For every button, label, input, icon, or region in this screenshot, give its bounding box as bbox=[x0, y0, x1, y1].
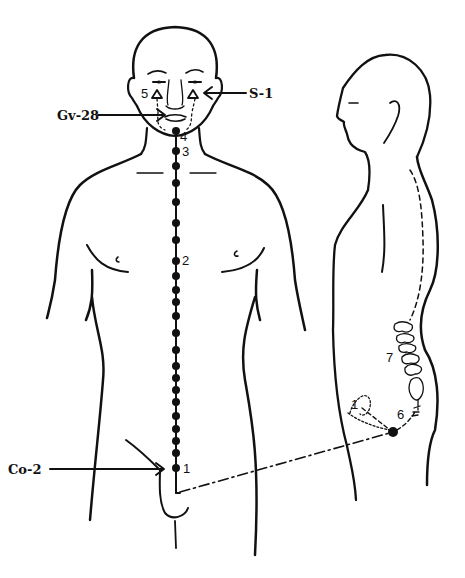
point-number-7: 7 bbox=[386, 350, 393, 365]
right-nipple bbox=[234, 251, 238, 256]
side-meridian-dashed bbox=[362, 408, 415, 430]
left-ear bbox=[128, 78, 137, 106]
point-number-3: 3 bbox=[182, 144, 189, 159]
conception-vessel-front bbox=[172, 127, 393, 493]
side-arm-line bbox=[382, 205, 384, 272]
nose bbox=[166, 80, 184, 109]
left-torso-side bbox=[86, 270, 104, 520]
right-ear bbox=[213, 78, 222, 106]
neck-right bbox=[199, 128, 205, 154]
left-pupil bbox=[157, 80, 162, 83]
face-markers bbox=[152, 90, 198, 98]
left-nipple bbox=[116, 257, 119, 262]
point-number-2: 2 bbox=[182, 253, 189, 268]
left-eyebrow bbox=[148, 71, 166, 74]
vessel-bottom-corner bbox=[176, 468, 180, 493]
label-s1: S-1 bbox=[249, 86, 273, 101]
side-figure bbox=[333, 55, 438, 500]
right-eyebrow bbox=[186, 70, 203, 73]
front-head-outline bbox=[133, 27, 217, 78]
sacrum bbox=[409, 378, 423, 400]
side-profile-front-outline bbox=[333, 55, 430, 500]
left-shoulder-arm-outer bbox=[47, 154, 141, 318]
dash-dot-connector bbox=[180, 432, 393, 492]
label-gv28: Gv-28 bbox=[57, 108, 99, 123]
point-number-5: 5 bbox=[141, 86, 148, 101]
right-shoulder-arm-outer bbox=[205, 154, 305, 330]
right-pupil bbox=[193, 80, 198, 83]
mouth bbox=[165, 115, 186, 122]
left-pectoral bbox=[87, 245, 128, 272]
spine-dashed bbox=[410, 170, 423, 320]
inner-leg-line bbox=[175, 521, 176, 548]
meridian-diagram: S-1 Gv-28 Co-2 5 4 3 2 1 7 bbox=[0, 0, 465, 578]
point-number-4: 4 bbox=[180, 129, 187, 144]
annotation-arrows bbox=[50, 87, 246, 475]
acupoint-dot-6 bbox=[388, 427, 398, 437]
triangle-marker-left bbox=[152, 90, 162, 98]
side-ear bbox=[384, 101, 399, 143]
right-pectoral bbox=[222, 248, 264, 272]
point-number-1-front: 1 bbox=[183, 461, 190, 476]
point-number-1-side: 1 bbox=[351, 397, 358, 412]
neck-left bbox=[141, 128, 147, 154]
right-torso-side bbox=[243, 270, 260, 555]
triangle-marker-right bbox=[188, 90, 198, 98]
point-number-6: 6 bbox=[397, 407, 404, 422]
lumbar-vertebrae bbox=[394, 322, 423, 416]
label-co2: Co-2 bbox=[8, 462, 41, 477]
